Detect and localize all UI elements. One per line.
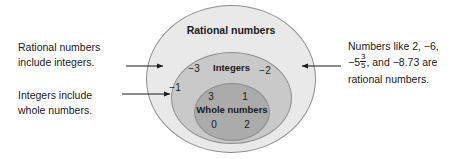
annotation-integers-include-whole: Integers include whole numbers. [18, 88, 92, 117]
annotation-rational-examples: Numbers like 2, −6, −535, and −8.73 are … [348, 38, 439, 87]
fraction-denominator: 5 [360, 62, 366, 70]
mixed-number-whole-part: −5 [348, 56, 360, 68]
annotation-line-tail: , and −8.73 are [366, 56, 437, 68]
number-sets-venn-diagram: Rational numbers Integers Whole numbers … [0, 0, 467, 159]
fraction-three-fifths: 35 [360, 53, 366, 70]
annotation-line: rational numbers. [348, 71, 439, 87]
annotation-line: Rational numbers [18, 40, 100, 55]
annotation-line: whole numbers. [18, 103, 92, 118]
annotation-line-with-fraction: −535, and −8.73 are [348, 54, 439, 71]
annotation-line: include integers. [18, 55, 100, 70]
annotation-line: Integers include [18, 88, 92, 103]
annotation-rational-includes-integers: Rational numbers include integers. [18, 40, 100, 69]
